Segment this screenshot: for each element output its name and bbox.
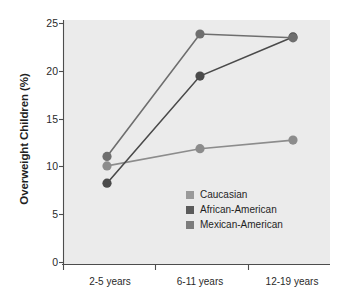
chart-legend: Caucasian African-American Mexican-Ameri… — [186, 188, 283, 231]
data-point — [102, 179, 111, 188]
legend-item: Mexican-American — [186, 218, 283, 231]
x-tick-label: 6-11 years — [177, 276, 224, 287]
legend-swatch-icon — [186, 206, 194, 214]
data-point — [288, 33, 297, 42]
x-tick-label: 2-5 years — [89, 276, 131, 287]
data-point — [195, 72, 204, 81]
data-point — [195, 144, 204, 153]
legend-label: Mexican-American — [200, 219, 283, 230]
plot-canvas — [0, 0, 342, 301]
legend-swatch-icon — [186, 221, 194, 229]
data-point — [102, 161, 111, 170]
chart-figure: Overweight Children (%) 25 20 15 10 5 0 — [0, 0, 342, 301]
data-point — [195, 29, 204, 38]
legend-label: African-American — [200, 204, 277, 215]
x-axis-ticks — [64, 265, 249, 270]
x-tick-label: 12-19 years — [266, 276, 319, 287]
data-point — [102, 152, 111, 161]
data-point — [288, 136, 297, 145]
legend-swatch-icon — [186, 191, 194, 199]
legend-item: Caucasian — [186, 188, 283, 201]
legend-item: African-American — [186, 203, 283, 216]
legend-label: Caucasian — [200, 189, 247, 200]
